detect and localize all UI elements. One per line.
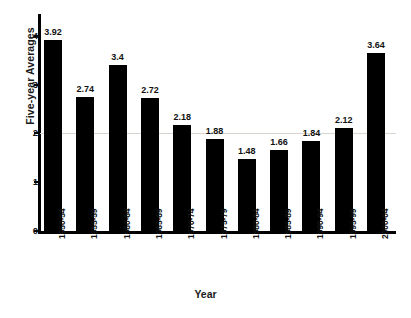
bar <box>44 40 62 231</box>
x-axis-tick-label: 1985-89 <box>283 209 293 240</box>
bar-value-label: 1.48 <box>229 146 265 156</box>
y-axis-tick-label: 3 <box>18 79 38 90</box>
x-axis-tick-label: 1990-94 <box>315 209 325 240</box>
bar <box>109 65 127 231</box>
bar-value-label: 2.18 <box>164 112 200 122</box>
x-axis-tick-label: 1970-74 <box>186 209 196 240</box>
y-axis-line <box>38 14 41 234</box>
y-axis-tick-label: 1 <box>18 176 38 187</box>
x-axis-tick-label: 1965-69 <box>154 209 164 240</box>
bar-value-label: 3.92 <box>35 27 71 37</box>
x-axis-title: Year <box>0 288 411 300</box>
bar-value-label: 3.4 <box>100 52 136 62</box>
x-axis-tick-label: 1995-99 <box>348 209 358 240</box>
x-axis-tick-label: 1955-59 <box>89 209 99 240</box>
y-axis-tick-label: 2 <box>18 127 38 138</box>
bar <box>367 53 385 231</box>
bar-value-label: 1.66 <box>261 137 297 147</box>
bar-chart: Five-year Averages 01234 3.922.743.42.72… <box>0 0 411 318</box>
x-axis-tick-label: 1960-64 <box>122 209 132 240</box>
x-axis-tick-label: 1980-84 <box>251 209 261 240</box>
x-axis-tick-label: 1975-79 <box>219 209 229 240</box>
bar-value-label: 1.84 <box>293 128 329 138</box>
y-axis-tick-label: 0 <box>18 225 38 236</box>
bar-value-label: 2.72 <box>132 85 168 95</box>
bar-value-label: 2.74 <box>67 84 103 94</box>
bar-value-label: 3.64 <box>358 40 394 50</box>
bar-value-label: 1.88 <box>197 126 233 136</box>
bar-value-label: 2.12 <box>326 115 362 125</box>
plot-area: 01234 3.922.743.42.722.181.881.481.661.8… <box>38 14 398 234</box>
x-axis-tick-label: 2000-04 <box>380 209 390 240</box>
x-axis-tick-label: 1950-54 <box>57 209 67 240</box>
